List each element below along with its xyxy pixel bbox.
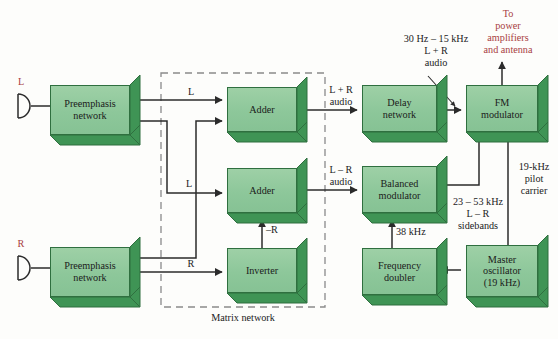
block-label: Preemphasis network bbox=[62, 260, 118, 283]
signal-label-pilot-carrier: 19-kHz pilot carrier bbox=[512, 161, 556, 197]
left-microphone-icon bbox=[18, 94, 30, 118]
signal-label-l-top: L bbox=[178, 86, 204, 98]
block-label: Inverter bbox=[244, 265, 280, 277]
block-balanced-modulator[interactable]: Balanced modulator bbox=[362, 166, 437, 213]
signal-label-l-mid: L bbox=[176, 178, 202, 190]
fm-stereo-block-diagram: Preemphasis network Preemphasis network … bbox=[0, 0, 558, 339]
input-label-left: L bbox=[12, 76, 30, 88]
block-label: Master oscillator (19 kHz) bbox=[481, 254, 523, 289]
input-label-right: R bbox=[12, 238, 30, 250]
block-inverter[interactable]: Inverter bbox=[227, 248, 297, 293]
block-label: FM modulator bbox=[479, 97, 525, 120]
block-fm-modulator[interactable]: FM modulator bbox=[466, 85, 538, 132]
block-master-oscillator[interactable]: Master oscillator (19 kHz) bbox=[466, 245, 538, 297]
signal-label-sum-audio: L + R audio bbox=[318, 84, 364, 108]
block-preemphasis-left[interactable]: Preemphasis network bbox=[50, 85, 130, 135]
block-label: Delay network bbox=[381, 97, 418, 120]
signal-label-r: R bbox=[178, 258, 204, 270]
right-microphone-icon bbox=[18, 256, 30, 280]
block-label: Preemphasis network bbox=[62, 98, 118, 121]
block-label: Adder bbox=[247, 185, 276, 197]
block-delay-network[interactable]: Delay network bbox=[362, 85, 437, 132]
signal-label-minus-r: –R bbox=[266, 224, 294, 236]
block-label: Frequency doubler bbox=[376, 260, 423, 283]
signal-label-diff-audio: L – R audio bbox=[318, 164, 364, 188]
block-preemphasis-right[interactable]: Preemphasis network bbox=[50, 247, 130, 297]
block-label: Adder bbox=[247, 104, 276, 116]
matrix-network-caption: Matrix network bbox=[193, 312, 293, 324]
signal-label-sidebands: 23 – 53 kHz L – R sidebands bbox=[444, 196, 512, 232]
block-label: Balanced modulator bbox=[377, 178, 423, 201]
signal-label-subcarrier-38khz: 38 kHz bbox=[396, 226, 440, 238]
block-adder-top[interactable]: Adder bbox=[227, 87, 297, 132]
output-label-to-power-amplifiers: To power amplifiers and antenna bbox=[462, 8, 554, 56]
block-adder-mid[interactable]: Adder bbox=[227, 168, 297, 213]
block-frequency-doubler[interactable]: Frequency doubler bbox=[362, 248, 437, 295]
